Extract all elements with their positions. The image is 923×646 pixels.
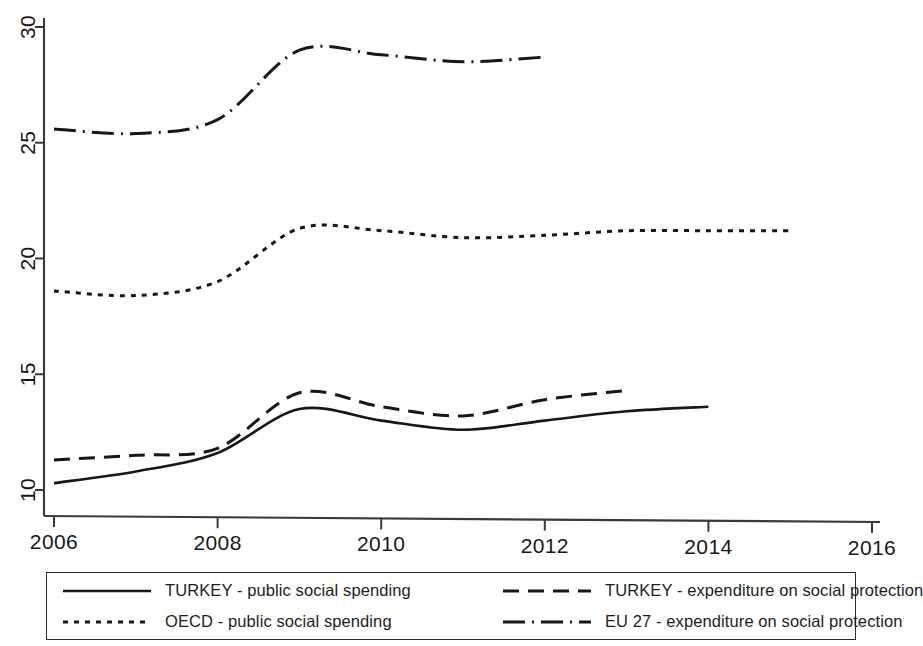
x-tick-label: 2010 bbox=[357, 532, 405, 555]
y-tick-label: 30 bbox=[16, 15, 39, 39]
y-tick-label: 25 bbox=[16, 131, 39, 155]
x-tick-label: 2012 bbox=[521, 534, 569, 557]
legend-item-oecd-public-social-spending: OECD - public social spending bbox=[61, 612, 501, 631]
series-lines bbox=[54, 46, 790, 483]
series-line-1 bbox=[54, 391, 627, 460]
legend-swatch-dotted-icon bbox=[61, 615, 153, 629]
legend-item-turkey-expenditure-social-protection: TURKEY - expenditure on social protectio… bbox=[501, 581, 923, 600]
x-tick-label: 2006 bbox=[30, 530, 78, 553]
legend-label: EU 27 - expenditure on social protection bbox=[605, 612, 903, 631]
y-tick-label: 15 bbox=[16, 362, 39, 386]
legend-item-eu27-expenditure-social-protection: EU 27 - expenditure on social protection bbox=[501, 612, 923, 631]
series-line-0 bbox=[54, 407, 708, 483]
x-tick-label: 2008 bbox=[193, 531, 241, 554]
legend-label: TURKEY - expenditure on social protectio… bbox=[605, 581, 923, 600]
legend-item-turkey-public-social-spending: TURKEY - public social spending bbox=[61, 581, 501, 600]
legend-swatch-solid-icon bbox=[61, 584, 153, 598]
series-line-3 bbox=[54, 46, 545, 134]
legend-swatch-dashed-icon bbox=[501, 584, 593, 598]
y-axis: 1015202530 bbox=[16, 15, 45, 516]
x-tick-label: 2016 bbox=[848, 536, 896, 559]
chart-legend: TURKEY - public social spending TURKEY -… bbox=[46, 572, 856, 640]
legend-label: TURKEY - public social spending bbox=[165, 581, 411, 600]
x-axis: 200620082010201220142016 bbox=[30, 516, 896, 559]
y-tick-label: 10 bbox=[16, 478, 39, 502]
y-tick-label: 20 bbox=[16, 246, 39, 270]
legend-swatch-dashdot-icon bbox=[501, 615, 593, 629]
legend-label: OECD - public social spending bbox=[165, 612, 392, 631]
x-tick-label: 2014 bbox=[684, 535, 732, 558]
series-line-2 bbox=[54, 225, 790, 296]
